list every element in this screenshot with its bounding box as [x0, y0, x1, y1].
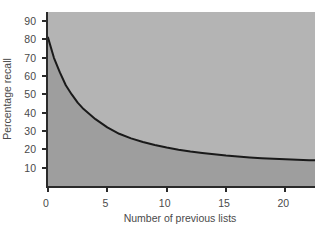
- y-tick-mark: [42, 130, 48, 132]
- chart-figure: 102030405060708090 05101520 Percentage r…: [0, 0, 327, 230]
- chart-canvas: [48, 12, 315, 186]
- x-axis-title: Number of previous lists: [124, 213, 237, 224]
- x-tick-mark: [106, 186, 108, 192]
- x-tick-mark: [225, 186, 227, 192]
- x-tick-mark: [47, 186, 49, 192]
- x-tick-label: 0: [43, 198, 49, 209]
- x-tick-label: 10: [159, 198, 171, 209]
- y-tick-label: 80: [0, 34, 36, 45]
- y-tick-mark: [42, 93, 48, 95]
- y-tick-mark: [42, 112, 48, 114]
- y-tick-mark: [42, 38, 48, 40]
- y-tick-mark: [42, 148, 48, 150]
- y-tick-label: 10: [0, 162, 36, 173]
- y-tick-mark: [42, 57, 48, 59]
- x-tick-mark: [166, 186, 168, 192]
- x-tick-label: 5: [102, 198, 108, 209]
- x-tick-label: 15: [218, 198, 230, 209]
- x-tick-mark: [284, 186, 286, 192]
- plot-area: [46, 12, 315, 188]
- y-tick-mark: [42, 75, 48, 77]
- y-tick-label: 90: [0, 16, 36, 27]
- y-tick-mark: [42, 20, 48, 22]
- y-tick-label: 20: [0, 144, 36, 155]
- x-tick-label: 20: [277, 198, 289, 209]
- y-axis-title: Percentage recall: [2, 58, 13, 140]
- y-tick-mark: [42, 167, 48, 169]
